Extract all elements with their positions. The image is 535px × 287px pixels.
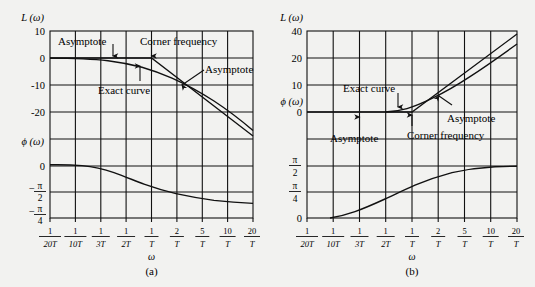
svg-text:1: 1 <box>357 226 361 236</box>
svg-text:3T: 3T <box>95 239 106 249</box>
svg-text:2T: 2T <box>381 239 391 249</box>
x-tick-a-7: 10 T <box>220 226 236 249</box>
x-tick-a-3: 1 2T <box>117 226 135 249</box>
svg-text:20T: 20T <box>43 239 58 249</box>
panel-a: L (ω) 10 0 -10 -20 ϕ (ω) 0 − π 2 − π 4 <box>0 0 267 287</box>
svg-text:T: T <box>250 239 256 249</box>
x-tick-labels-b: 1 20T 1 10T 1 3T 1 2T 1 T 2 T <box>296 226 524 249</box>
x-tick-b-6: 5 T <box>458 226 472 249</box>
svg-text:π: π <box>293 181 298 191</box>
svg-text:T: T <box>462 239 468 249</box>
svg-text:1: 1 <box>384 226 388 236</box>
svg-text:20: 20 <box>512 226 521 236</box>
asymptote-high-label-a: Asymptote <box>205 63 253 75</box>
phase-tick-b-0: 0 <box>297 107 302 118</box>
y-tick-a-3: -20 <box>31 107 45 118</box>
svg-text:T: T <box>175 239 181 249</box>
x-ticks-b <box>307 218 517 222</box>
svg-text:T: T <box>410 239 416 249</box>
x-tick-a-6: 5 T <box>195 226 209 249</box>
svg-text:20T: 20T <box>300 239 315 249</box>
svg-text:1: 1 <box>48 226 52 236</box>
x-tick-b-2: 1 3T <box>351 226 369 249</box>
y-tick-b-0: 40 <box>292 26 303 37</box>
phase-axis-label-a: ϕ (ω) <box>22 136 45 148</box>
svg-text:T: T <box>225 239 231 249</box>
magnitude-axis-label-a: L (ω) <box>20 12 44 24</box>
panel-a-plot: L (ω) 10 0 -10 -20 ϕ (ω) 0 − π 2 − π 4 <box>0 0 267 287</box>
x-tick-a-4: 1 T <box>145 226 159 249</box>
phase-tick-a-1: − π 2 <box>29 181 46 203</box>
svg-text:1: 1 <box>99 226 103 236</box>
svg-text:2: 2 <box>436 226 440 236</box>
y-tick-b-1: 20 <box>292 53 303 64</box>
svg-text:5: 5 <box>462 226 466 236</box>
exact-curve-label-a: Exact curve <box>98 84 150 96</box>
phase-tick-b-1: π 2 <box>289 155 301 178</box>
svg-text:T: T <box>200 239 206 249</box>
x-tick-b-1: 1 10T <box>322 226 344 249</box>
asymptote-low-label-b: Asymptote <box>330 132 378 144</box>
x-tick-b-0: 1 20T <box>296 226 318 249</box>
svg-text:T: T <box>514 239 520 249</box>
svg-text:1: 1 <box>149 226 153 236</box>
x-tick-labels-a: 1 20T 1 10T 1 3T 1 2T 1 T 2 T <box>39 226 260 249</box>
asymptote-low-label-a: Asymptote <box>58 35 106 47</box>
svg-text:T: T <box>149 239 155 249</box>
corner-frequency-label-a: Corner frequency <box>140 35 218 47</box>
y-tick-a-1: 0 <box>40 53 45 64</box>
x-tick-a-8: 20 T <box>244 226 260 249</box>
svg-text:1: 1 <box>410 226 414 236</box>
svg-text:π: π <box>38 204 43 214</box>
svg-text:10: 10 <box>223 226 232 236</box>
svg-text:4: 4 <box>293 194 298 204</box>
svg-text:4: 4 <box>38 216 43 226</box>
svg-text:−: − <box>29 206 35 217</box>
magnitude-axis-label-b: L (ω) <box>279 12 303 24</box>
svg-text:−: − <box>29 183 35 194</box>
caption-a: (a) <box>145 265 158 278</box>
x-tick-a-2: 1 3T <box>92 226 110 249</box>
x-tick-b-8: 20 T <box>508 226 524 249</box>
exact-curve-label-b: Exact curve <box>343 82 395 94</box>
svg-text:10T: 10T <box>69 239 84 249</box>
y-tick-b-2: 10 <box>292 80 303 91</box>
svg-text:10: 10 <box>486 226 495 236</box>
x-axis-label-a: ω <box>148 251 155 262</box>
svg-text:π: π <box>38 181 43 191</box>
svg-text:T: T <box>436 239 442 249</box>
corner-frequency-label-b: Corner frequency <box>407 129 485 141</box>
x-tick-a-1: 1 10T <box>64 226 86 249</box>
svg-text:1: 1 <box>305 226 309 236</box>
svg-text:π: π <box>293 155 298 165</box>
asymptote-high-label-b: Asymptote <box>447 112 495 124</box>
svg-text:1: 1 <box>331 226 335 236</box>
panel-b-plot: L (ω) 40 20 10 ϕ (ω) 0 π 2 π 4 0 Exact c… <box>267 0 534 287</box>
x-ticks-a <box>50 218 253 222</box>
svg-text:2: 2 <box>175 226 179 236</box>
svg-text:1: 1 <box>73 226 77 236</box>
svg-text:10T: 10T <box>327 239 342 249</box>
x-axis-label-b: ω <box>408 251 415 262</box>
svg-text:1: 1 <box>124 226 128 236</box>
asymptote-high-arrow-b <box>439 96 452 105</box>
asymptote-high-arrow-a <box>182 70 204 85</box>
phase-tick-a-0: 0 <box>40 161 45 172</box>
x-tick-b-7: 10 T <box>483 226 499 249</box>
svg-text:20: 20 <box>248 226 257 236</box>
x-tick-b-3: 1 2T <box>377 226 395 249</box>
x-tick-b-4: 1 T <box>405 226 419 249</box>
svg-text:2: 2 <box>293 168 298 178</box>
bode-figure: L (ω) 10 0 -10 -20 ϕ (ω) 0 − π 2 − π 4 <box>0 0 535 287</box>
svg-text:5: 5 <box>200 226 204 236</box>
caption-b: (b) <box>406 265 419 278</box>
svg-text:2T: 2T <box>122 239 132 249</box>
y-tick-a-2: -10 <box>31 80 45 91</box>
x-tick-a-0: 1 20T <box>39 226 61 249</box>
y-tick-a-0: 10 <box>35 26 46 37</box>
x-tick-a-5: 2 T <box>170 226 184 249</box>
magnitude-exact-curve-b <box>385 44 517 112</box>
panel-b: L (ω) 40 20 10 ϕ (ω) 0 π 2 π 4 0 Exact c… <box>267 0 534 287</box>
svg-text:T: T <box>488 239 494 249</box>
phase-tick-a-2: − π 4 <box>29 204 46 226</box>
